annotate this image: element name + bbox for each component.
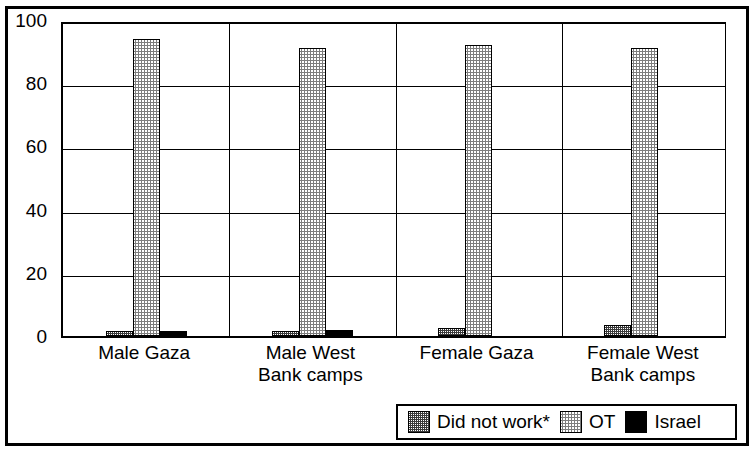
y-axis-tick-labels: 020406080100 (0, 0, 55, 453)
x-axis-category-labels: Male GazaMale WestBank campsFemale GazaF… (61, 342, 726, 398)
y-tick-label-80: 80 (0, 74, 55, 93)
legend-swatch-icon (625, 411, 647, 433)
category-label-line: Male Gaza (61, 342, 227, 364)
category-label-female-west-bank-camps: Female WestBank camps (560, 342, 726, 386)
category-separator-2 (396, 23, 397, 336)
legend-label: OT (589, 411, 615, 433)
legend-swatch-icon (408, 411, 430, 433)
category-separator-3 (562, 23, 563, 336)
legend-item-ot: OT (560, 411, 615, 433)
bar-did-not-work-male-west-bank-camps (272, 331, 299, 336)
gridline-80 (63, 86, 725, 87)
category-label-line: Bank camps (560, 364, 726, 386)
gridline-20 (63, 276, 725, 277)
y-tick-label-20: 20 (0, 264, 55, 283)
bar-israel-male-west-bank-camps (326, 330, 353, 336)
category-label-line: Male West (227, 342, 393, 364)
bar-ot-male-gaza (133, 39, 160, 336)
category-label-line: Female Gaza (394, 342, 560, 364)
y-tick-label-100: 100 (0, 11, 55, 30)
category-separator-1 (229, 23, 230, 336)
chart-figure: 020406080100 Male GazaMale WestBank camp… (0, 0, 754, 453)
legend-label: Did not work* (437, 411, 550, 433)
y-tick-label-60: 60 (0, 137, 55, 156)
chart-legend: Did not work*OTIsrael (396, 404, 737, 440)
bar-did-not-work-female-gaza (438, 328, 465, 336)
gridline-60 (63, 149, 725, 150)
legend-item-did-not-work: Did not work* (408, 411, 550, 433)
plot-area (61, 22, 726, 338)
y-tick-label-0: 0 (0, 327, 55, 346)
category-label-male-gaza: Male Gaza (61, 342, 227, 364)
gridline-40 (63, 213, 725, 214)
category-label-male-west-bank-camps: Male WestBank camps (227, 342, 393, 386)
category-label-female-gaza: Female Gaza (394, 342, 560, 364)
bar-did-not-work-male-gaza (106, 331, 133, 336)
legend-swatch-icon (560, 411, 582, 433)
category-label-line: Bank camps (227, 364, 393, 386)
category-label-line: Female West (560, 342, 726, 364)
legend-item-israel: Israel (625, 411, 700, 433)
legend-label: Israel (654, 411, 700, 433)
bar-ot-male-west-bank-camps (299, 48, 326, 336)
bar-israel-male-gaza (160, 331, 187, 336)
gridline-100 (63, 23, 725, 24)
bar-did-not-work-female-west-bank-camps (604, 325, 631, 336)
y-tick-label-40: 40 (0, 201, 55, 220)
bar-ot-female-west-bank-camps (631, 48, 658, 336)
bar-ot-female-gaza (465, 45, 492, 336)
